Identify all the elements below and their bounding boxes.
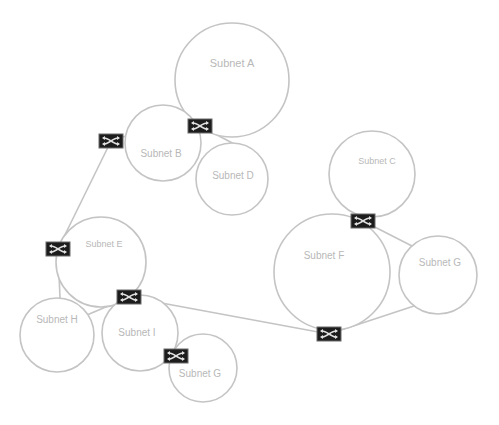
subnet-label: Subnet D: [212, 170, 254, 181]
subnet-label: Subnet F: [304, 250, 345, 261]
subnet-h[interactable]: Subnet H: [20, 298, 94, 372]
subnet-g1[interactable]: Subnet G: [399, 236, 477, 314]
subnet-label: Subnet H: [36, 314, 78, 325]
subnet-g2[interactable]: Subnet G: [169, 334, 237, 402]
subnet-b[interactable]: Subnet B: [125, 105, 201, 181]
router-icon[interactable]: [317, 327, 341, 341]
subnet-d[interactable]: Subnet D: [196, 143, 268, 215]
subnet-label: Subnet G: [419, 257, 461, 268]
subnet-f[interactable]: Subnet F: [274, 214, 390, 330]
subnet-label: Subnet C: [358, 156, 396, 166]
router-icon[interactable]: [117, 290, 141, 304]
subnet-circle[interactable]: [125, 105, 201, 181]
subnet-label: Subnet A: [210, 57, 255, 69]
subnets-layer: Subnet ASubnet BSubnet DSubnet CSubnet F…: [20, 23, 477, 402]
router-icon[interactable]: [188, 119, 212, 133]
subnet-circle[interactable]: [274, 214, 390, 330]
subnet-circle[interactable]: [399, 236, 477, 314]
subnet-label: Subnet E: [85, 239, 122, 249]
subnet-c[interactable]: Subnet C: [329, 131, 415, 217]
subnet-circle[interactable]: [20, 298, 94, 372]
subnet-circle[interactable]: [329, 131, 415, 217]
subnet-label: Subnet I: [118, 327, 155, 338]
network-diagram: Subnet ASubnet BSubnet DSubnet CSubnet F…: [0, 0, 499, 425]
router-icon[interactable]: [164, 349, 188, 363]
subnet-label: Subnet G: [179, 368, 221, 379]
router-icon[interactable]: [99, 134, 123, 148]
router-icon[interactable]: [351, 214, 375, 228]
router-icon[interactable]: [46, 242, 70, 256]
subnet-label: Subnet B: [140, 148, 181, 159]
